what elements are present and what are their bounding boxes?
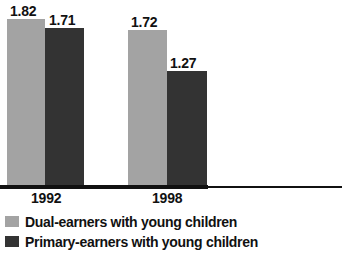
legend-label-dual-earners: Dual-earners with young children: [25, 215, 237, 229]
bar-primary-earners-1998: [167, 71, 207, 188]
chart-legend: Dual-earners with young children Primary…: [5, 212, 305, 252]
x-axis-tick-label-1992: 1992: [31, 191, 61, 205]
legend-item-primary-earners: Primary-earners with young children: [5, 232, 305, 251]
bar-value-primary-earners-1992: 1.71: [49, 13, 75, 27]
legend-swatch-icon-primary-earners: [5, 236, 19, 247]
bar-chart: 1.82 1.71 1.72 1.27 1992 1998 Dual-earne…: [0, 0, 342, 253]
x-axis-line-extension: [207, 186, 342, 188]
bar-value-primary-earners-1998: 1.27: [170, 56, 196, 70]
legend-item-dual-earners: Dual-earners with young children: [5, 212, 305, 231]
x-axis-tick-label-1998: 1998: [152, 191, 182, 205]
plot-area: 1.82 1.71 1.72 1.27: [0, 0, 342, 188]
x-axis-line: [0, 185, 208, 189]
bar-value-dual-earners-1998: 1.72: [131, 15, 157, 29]
bar-primary-earners-1992: [45, 28, 84, 188]
legend-label-primary-earners: Primary-earners with young children: [25, 235, 258, 249]
bar-dual-earners-1992: [7, 19, 45, 188]
legend-swatch-icon-dual-earners: [5, 216, 19, 227]
bar-dual-earners-1998: [128, 30, 167, 188]
bar-value-dual-earners-1992: 1.82: [10, 4, 36, 18]
